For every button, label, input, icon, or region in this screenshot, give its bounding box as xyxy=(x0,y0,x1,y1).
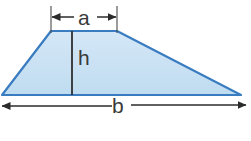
dimension-label-b: b xyxy=(112,95,124,116)
trapezoid-shape xyxy=(2,31,241,95)
dimension-label-h: h xyxy=(78,47,90,68)
trapezoid-diagram: a h b xyxy=(0,0,251,141)
dimension-label-a: a xyxy=(78,7,90,28)
diagram-canvas xyxy=(0,0,251,141)
